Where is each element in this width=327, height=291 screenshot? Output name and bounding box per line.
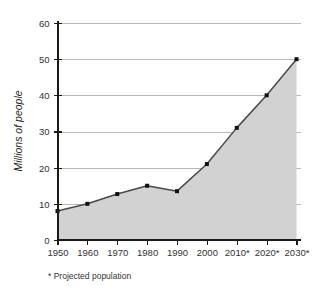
y-tick-label-0: 0 — [44, 235, 49, 246]
x-tick-label-1970: 1970 — [107, 247, 128, 258]
data-point-2020-projected — [265, 93, 269, 97]
y-axis-label: Millions of people — [12, 90, 24, 171]
y-tick-label-30: 30 — [39, 126, 50, 137]
y-tick-label-40: 40 — [39, 90, 50, 101]
data-point-2010-projected — [235, 126, 239, 130]
x-tick-label-1960: 1960 — [77, 247, 98, 258]
data-point-1970 — [115, 192, 119, 196]
y-tick-label-60: 60 — [39, 18, 50, 29]
data-point-2030-projected — [295, 57, 299, 61]
x-tick-label-1990: 1990 — [167, 247, 188, 258]
x-tick-label-1980: 1980 — [137, 247, 158, 258]
y-tick-label-10: 10 — [39, 199, 50, 210]
chart-canvas: 0102030405060 19501960197019801990200020… — [0, 0, 327, 291]
data-point-2000 — [205, 162, 209, 166]
x-tick-label-2010-projected: 2010* — [225, 247, 250, 258]
y-tick-label-50: 50 — [39, 54, 50, 65]
x-tick-label-2030-projected: 2030* — [285, 247, 310, 258]
data-point-1990 — [175, 189, 179, 193]
x-tick-label-2020-projected: 2020* — [255, 247, 280, 258]
x-tick-label-1950: 1950 — [47, 247, 68, 258]
data-point-1960 — [85, 202, 89, 206]
footnote-label: * Projected population — [48, 271, 131, 281]
y-tick-label-20: 20 — [39, 163, 50, 174]
population-area-chart: 0102030405060 19501960197019801990200020… — [0, 0, 327, 291]
x-tick-label-2000: 2000 — [197, 247, 218, 258]
data-point-1980 — [145, 184, 149, 188]
